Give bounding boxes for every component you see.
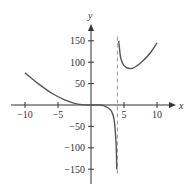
x-tick-label: −5 bbox=[53, 109, 64, 120]
y-tick-label: −150 bbox=[64, 164, 85, 175]
y-axis-label: y bbox=[87, 10, 93, 21]
y-tick-label: 50 bbox=[75, 78, 85, 89]
y-tick-label: 100 bbox=[70, 57, 85, 68]
x-tick-label: 5 bbox=[122, 109, 127, 120]
x-tick-label: −10 bbox=[17, 109, 33, 120]
axes: xy bbox=[11, 10, 184, 184]
y-tick-label: −50 bbox=[69, 121, 85, 132]
y-tick-label: 150 bbox=[70, 35, 85, 46]
x-axis-label: x bbox=[178, 100, 184, 111]
x-arrow-icon bbox=[169, 102, 176, 108]
chart: xy −10−551015010050−50−100−150 bbox=[0, 0, 193, 193]
x-tick-label: 10 bbox=[152, 109, 162, 120]
curve-right-branch bbox=[119, 41, 157, 69]
y-arrow-icon bbox=[88, 24, 94, 31]
y-tick-label: −100 bbox=[64, 142, 85, 153]
